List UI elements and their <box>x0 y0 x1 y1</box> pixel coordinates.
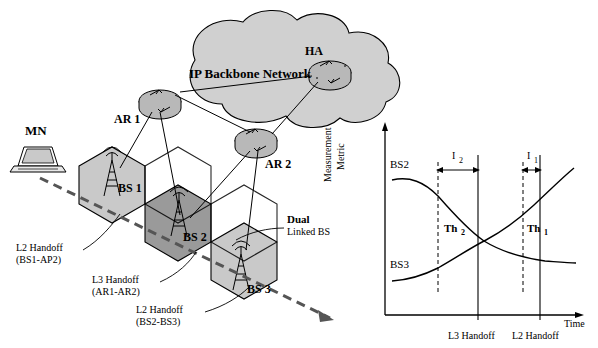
node-label-ar2: AR 2 <box>265 157 291 172</box>
chart-xmarker-l2-handoff: L2 Handoff <box>512 330 559 341</box>
chart-xlabel: Time <box>564 318 585 329</box>
figure-canvas: IP Backbone Network HA AR 1 AR 2 MN BS 1… <box>0 0 598 348</box>
dual-linked-bs-label-line1: Dual <box>287 213 310 225</box>
chart-interval-markers <box>436 167 542 173</box>
annotation-0-line2: (BS1-AP2) <box>16 254 61 265</box>
chart-threshold-2-label: Th <box>444 222 457 234</box>
annotation-2-line2: (BS2-BS3) <box>136 316 180 327</box>
diagram-svg <box>0 0 598 348</box>
router-ar2 <box>235 129 277 158</box>
node-label-bs1: BS 1 <box>118 181 142 196</box>
node-label-mn: MN <box>25 123 47 139</box>
cloud-label: IP Backbone Network <box>189 66 311 82</box>
chart-interval-2-sub: 2 <box>459 156 463 165</box>
annotation-0-line1: L2 Handoff <box>16 242 63 253</box>
chart-series-label-bs3: BS3 <box>390 258 409 270</box>
chart-interval-1-sub: 1 <box>534 156 538 165</box>
chart-series-label-bs2: BS2 <box>390 158 409 170</box>
chart-xmarker-l3-handoff: L3 Handoff <box>448 330 495 341</box>
chart-ylabel-line2: Metric <box>335 50 346 170</box>
chart-interval-2-label: I <box>452 150 455 161</box>
chart-curve-bs3 <box>392 168 574 281</box>
chart-interval-1-label: I <box>527 150 530 161</box>
annotation-2-line1: L2 Handoff <box>136 304 183 315</box>
annotation-1-line1: L3 Handoff <box>92 274 139 285</box>
router-ar1 <box>139 90 181 119</box>
chart-ylabel-line1: Measurement <box>322 62 333 182</box>
laptop-mn-icon <box>10 147 66 172</box>
chart-axes <box>382 122 584 318</box>
chart-threshold-1-label: Th <box>527 222 540 234</box>
node-label-bs3: BS 3 <box>247 282 271 297</box>
node-label-ar1: AR 1 <box>114 112 140 127</box>
dual-linked-bs-label-line2: Linked BS <box>287 226 330 237</box>
chart-handoff-lines <box>478 155 540 320</box>
annotation-1-line2: (AR1-AR2) <box>92 286 140 297</box>
chart-threshold-2-sub: 2 <box>461 228 465 237</box>
chart-threshold-1-sub: 1 <box>544 228 548 237</box>
node-label-bs2: BS 2 <box>183 230 207 245</box>
node-label-ha: HA <box>305 44 323 59</box>
